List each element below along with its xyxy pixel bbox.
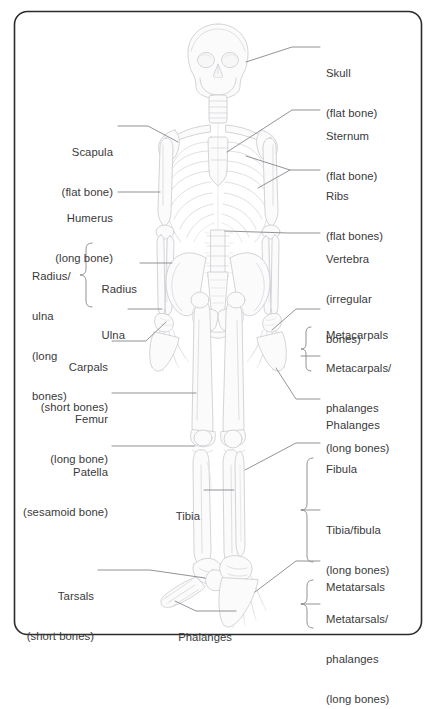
label-mtp-line-2: phalanges	[326, 653, 389, 666]
label-mtp-line-3: (long bones)	[326, 693, 389, 706]
cervical-spine	[209, 95, 227, 123]
label-tibia: Tibia	[0, 483, 200, 550]
label-tibia-name: Tibia	[0, 510, 200, 523]
label-phalanges-hand-name: Phalanges	[326, 419, 380, 432]
label-fibula-name: Fibula	[326, 463, 357, 476]
label-radius-name: Radius	[0, 283, 137, 296]
label-skull-name: Skull	[326, 67, 377, 80]
label-fibula: Fibula	[326, 436, 357, 503]
label-phalanges-foot-name: Phalanges	[0, 631, 232, 644]
label-carpals-name: Carpals	[0, 361, 108, 374]
label-mcp-line-1: Metacarpals/	[326, 362, 391, 375]
label-tf-line-1: Tibia/fibula	[326, 524, 389, 537]
label-femur-name: Femur	[0, 413, 108, 426]
label-patella-name: Patella	[0, 466, 108, 479]
label-mtp-line-1: Metatarsals/	[326, 613, 389, 626]
label-sternum-name: Sternum	[326, 130, 377, 143]
label-metatarsals-phalanges-group: Metatarsals/ phalanges (long bones)	[326, 586, 389, 709]
label-phalanges-foot: Phalanges	[0, 604, 232, 671]
skull-bone	[188, 24, 248, 99]
label-tarsals-name: Tarsals	[0, 590, 94, 603]
label-scapula-name: Scapula	[0, 146, 113, 159]
label-vertebra-name: Vertebra	[326, 253, 372, 266]
label-ribs-name: Ribs	[326, 190, 383, 203]
label-humerus-name: Humerus	[0, 212, 113, 225]
